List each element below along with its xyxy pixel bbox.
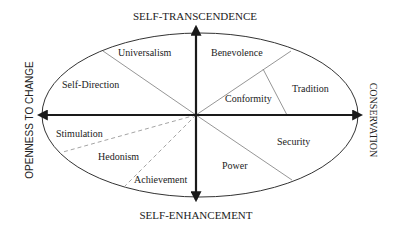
value-label-tradition: Tradition — [292, 83, 329, 94]
value-label-stimulation: Stimulation — [56, 128, 103, 139]
divider-conformity-tradition — [263, 69, 287, 115]
value-label-security: Security — [277, 136, 310, 147]
value-label-self-direction: Self-Direction — [62, 79, 119, 90]
axis-label-bottom: SELF-ENHANCEMENT — [139, 209, 252, 221]
value-label-universalism: Universalism — [118, 47, 172, 58]
value-label-achievement: Achievement — [134, 174, 188, 185]
axis-label-top: SELF-TRANSCENDENCE — [133, 10, 257, 22]
value-label-power: Power — [222, 160, 248, 171]
values-circumplex-diagram: SELF-TRANSCENDENCE SELF-ENHANCEMENT OPEN… — [0, 0, 398, 227]
axis-label-left: OPENNESS TO CHANGE — [24, 61, 35, 179]
axis-label-right: CONSERVATION — [368, 83, 379, 158]
value-label-conformity: Conformity — [225, 93, 272, 104]
value-label-benevolence: Benevolence — [211, 47, 263, 58]
value-label-hedonism: Hedonism — [98, 151, 139, 162]
divider-benevolence-tradition — [196, 51, 291, 115]
